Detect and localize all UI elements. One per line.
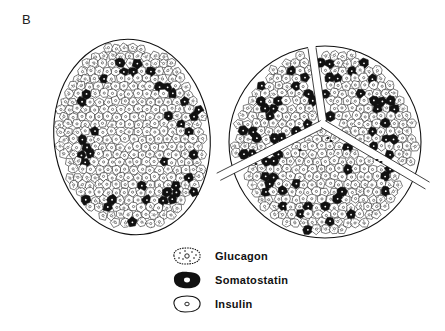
legend-item-glucagon: Glucagon: [170, 244, 288, 268]
blood-cell: [329, 140, 332, 142]
blood-cell: [254, 163, 257, 165]
glucagon-cell: [181, 181, 190, 190]
insulin-cell: [132, 141, 141, 150]
dotted-cell-icon: [170, 246, 204, 266]
insulin-cell: [144, 82, 154, 91]
legend: Glucagon Somatostatin Insulin: [170, 244, 288, 316]
legend-label-insulin: Insulin: [215, 298, 253, 310]
blood-cell: [379, 161, 382, 163]
legend-item-somatostatin: Somatostatin: [170, 268, 288, 292]
blood-cell: [326, 137, 329, 139]
glucagon-cell: [76, 188, 86, 196]
insulin-cell: [326, 179, 336, 187]
black-cell-icon: [170, 270, 204, 290]
legend-label-somatostatin: Somatostatin: [215, 274, 288, 286]
blood-cell: [375, 159, 378, 161]
clear-cell-icon: [170, 294, 204, 314]
glucagon-cell: [308, 111, 317, 120]
somatostatin-cell: [86, 149, 95, 158]
glucagon-cell: [252, 189, 262, 198]
insulin-cell: [128, 180, 137, 189]
insulin-cell: [266, 165, 275, 174]
legend-label-glucagon: Glucagon: [215, 250, 268, 262]
blood-cell: [298, 149, 301, 151]
legend-item-insulin: Insulin: [170, 292, 288, 316]
insulin-cell: [287, 210, 296, 219]
right-islet: [217, 46, 430, 238]
glucagon-cell: [151, 59, 160, 68]
left-islet: [43, 30, 221, 243]
